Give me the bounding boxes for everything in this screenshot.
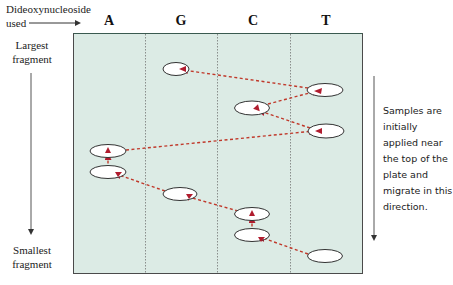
- band-t-3: [308, 250, 343, 263]
- band-c-3: [235, 229, 270, 242]
- band-t-2: [308, 124, 344, 138]
- band-t-1: [307, 84, 343, 97]
- band-c-1: [235, 101, 270, 115]
- sequencing-gel-diagram: [0, 0, 453, 285]
